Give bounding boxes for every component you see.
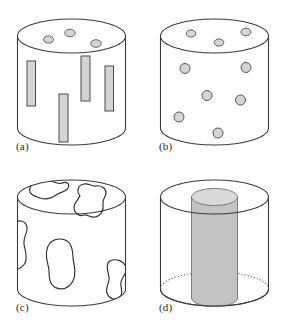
top-inclusion	[91, 40, 101, 48]
cylinder-top-b	[161, 19, 269, 53]
top-particle	[186, 30, 196, 37]
fiber-rect	[105, 66, 114, 111]
panel-c-drawing	[0, 161, 143, 323]
particle	[241, 63, 251, 73]
panel-a-drawing	[0, 0, 143, 162]
fiber-rect	[59, 94, 68, 142]
particle	[174, 112, 184, 122]
top-particle	[241, 28, 251, 36]
cylinder-top-c	[18, 180, 126, 214]
core-top-d	[192, 189, 238, 206]
particle	[236, 95, 246, 105]
panel-d-drawing	[143, 161, 286, 323]
panel-b-particulate	[143, 0, 286, 162]
top-particle	[214, 39, 224, 46]
figure-root: (a) (b) (c) (d)	[0, 0, 286, 323]
fiber-rect	[27, 61, 36, 106]
panel-label-d: (d)	[159, 301, 172, 313]
particle	[202, 91, 212, 101]
panel-label-a: (a)	[16, 140, 29, 152]
top-inclusion	[44, 36, 54, 43]
panel-c-irregular-phase	[0, 161, 143, 323]
panel-label-b: (b)	[159, 140, 172, 152]
particle	[213, 128, 223, 138]
top-inclusion	[65, 29, 75, 37]
panel-d-concentric-core	[143, 161, 286, 323]
particle	[180, 64, 190, 74]
panel-b-drawing	[143, 0, 286, 162]
panel-a-aligned-fiber	[0, 0, 143, 162]
fiber-rect	[81, 56, 90, 101]
panel-label-c: (c)	[16, 301, 29, 313]
